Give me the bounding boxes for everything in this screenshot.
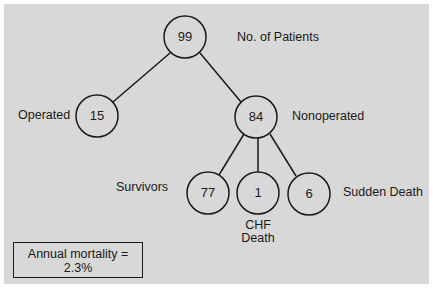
edge-root-nonoperated	[200, 53, 241, 102]
node-chf-value: 1	[243, 186, 273, 200]
node-sudden-value: 6	[294, 187, 324, 201]
node-sudden-label: Sudden Death	[343, 185, 423, 199]
node-chf-label-line1: CHF	[236, 218, 280, 232]
edge-nonoperated-sudden	[270, 134, 296, 176]
annual-mortality-line1: Annual mortality =	[14, 247, 142, 261]
node-chf-label-line2: Death	[236, 231, 280, 245]
node-root-value: 99	[170, 30, 200, 44]
node-operated-value: 15	[82, 109, 112, 123]
node-operated-label: Operated	[18, 108, 70, 122]
node-nonoperated-value: 84	[241, 110, 271, 124]
node-nonoperated-label: Nonoperated	[292, 109, 364, 123]
edge-nonoperated-survivors	[219, 134, 244, 175]
node-root-label: No. of Patients	[237, 30, 319, 44]
annual-mortality-box: Annual mortality = 2.3%	[13, 242, 143, 278]
annual-mortality-value: 2.3%	[14, 261, 142, 275]
node-survivors-value: 77	[193, 186, 223, 200]
node-survivors-label: Survivors	[116, 180, 168, 194]
edge-root-operated	[113, 53, 170, 102]
